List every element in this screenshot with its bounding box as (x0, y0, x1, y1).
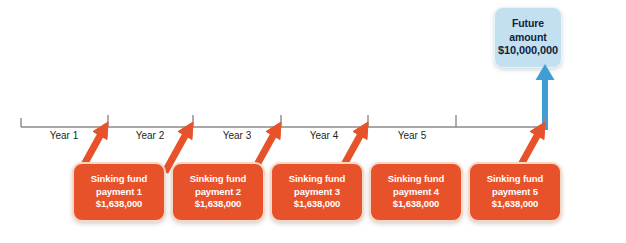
payment-4-line1: Sinking fund (388, 173, 444, 186)
payment-box-3: Sinking fund payment 3 $1,638,000 (270, 162, 364, 222)
timeline-ticks (21, 115, 545, 127)
payment-1-amount: $1,638,000 (96, 198, 143, 211)
payment-2-line2: payment 2 (195, 186, 241, 199)
year-label-1: Year 1 (34, 130, 94, 141)
year-label-4: Year 4 (294, 130, 354, 141)
payment-box-2: Sinking fund payment 2 $1,638,000 (171, 162, 265, 222)
payment-box-4: Sinking fund payment 4 $1,638,000 (369, 162, 463, 222)
year-label-5: Year 5 (382, 130, 442, 141)
sinking-fund-timeline-diagram: Future amount $10,000,000 (0, 0, 626, 243)
year-label-2: Year 2 (120, 130, 180, 141)
blue-up-arrow-icon (532, 62, 558, 130)
payment-1-line2: payment 1 (96, 186, 142, 199)
payment-4-line2: payment 4 (393, 186, 439, 199)
payment-3-amount: $1,638,000 (294, 198, 341, 211)
future-amount-value: $10,000,000 (498, 44, 558, 58)
payment-2-amount: $1,638,000 (195, 198, 242, 211)
future-amount-label-line1: Future (512, 17, 544, 31)
payment-5-amount: $1,638,000 (492, 198, 539, 211)
payment-3-line1: Sinking fund (289, 173, 345, 186)
payment-5-line1: Sinking fund (487, 173, 543, 186)
year-label-3: Year 3 (207, 130, 267, 141)
payment-box-1: Sinking fund payment 1 $1,638,000 (72, 162, 166, 222)
payment-box-5: Sinking fund payment 5 $1,638,000 (468, 162, 562, 222)
payment-1-line1: Sinking fund (91, 173, 147, 186)
future-amount-label-line2: amount (509, 31, 546, 45)
payment-4-amount: $1,638,000 (393, 198, 440, 211)
payment-2-line1: Sinking fund (190, 173, 246, 186)
future-amount-box: Future amount $10,000,000 (494, 7, 562, 68)
payment-5-line2: payment 5 (492, 186, 538, 199)
payment-3-line2: payment 3 (294, 186, 340, 199)
